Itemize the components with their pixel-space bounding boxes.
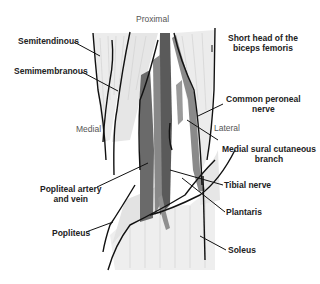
- label-medial-sural-cutaneous-branch: Medial sural cutaneous branch: [222, 144, 316, 164]
- label-plantaris: Plantaris: [226, 207, 262, 217]
- lateral-label: Lateral: [214, 123, 240, 133]
- label-popliteal-artery-vein: Popliteal artery and vein: [40, 184, 101, 204]
- label-soleus: Soleus: [228, 245, 256, 255]
- label-common-peroneal-nerve: Common peroneal nerve: [226, 94, 301, 114]
- proximal-label: Proximal: [136, 14, 169, 24]
- label-popliteus: Popliteus: [52, 228, 90, 238]
- label-short-head-biceps-femoris: Short head of the biceps femoris: [228, 33, 298, 53]
- label-semitendinous: Semitendinous: [18, 36, 79, 46]
- label-tibial-nerve: Tibial nerve: [224, 180, 271, 190]
- medial-label: Medial: [76, 124, 101, 134]
- label-semimembranous: Semimembranous: [14, 66, 88, 76]
